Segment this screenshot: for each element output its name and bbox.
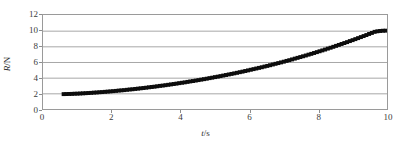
data-point	[384, 29, 387, 33]
x-tick-label: 4	[168, 112, 192, 122]
x-axis-tick-labels: 0246810	[0, 112, 411, 126]
x-tick-label: 8	[307, 112, 331, 122]
data-series-markers	[43, 15, 387, 109]
x-tick-label: 0	[30, 112, 54, 122]
y-tick-mark	[39, 94, 42, 95]
series-0	[62, 29, 387, 96]
x-axis-title-unit: /s	[204, 128, 210, 138]
y-tick-mark	[39, 78, 42, 79]
y-tick-label: 4	[16, 74, 38, 83]
y-tick-mark	[39, 14, 42, 15]
y-axis-title-unit: /N	[2, 57, 12, 66]
y-tick-label: 6	[16, 58, 38, 67]
x-tick-label: 6	[238, 112, 262, 122]
y-tick-mark	[39, 30, 42, 31]
y-tick-mark	[39, 46, 42, 47]
y-tick-label: 8	[16, 42, 38, 51]
x-tick-mark	[319, 110, 320, 113]
y-tick-mark	[39, 110, 42, 111]
x-axis-title: t/s	[0, 128, 411, 138]
x-tick-mark	[111, 110, 112, 113]
y-tick-mark	[39, 62, 42, 63]
x-tick-mark	[250, 110, 251, 113]
y-tick-label: 12	[16, 10, 38, 19]
chart-figure: R/N 024681012 0246810 t/s	[0, 0, 411, 146]
plot-area	[42, 14, 388, 110]
x-tick-label: 2	[99, 112, 123, 122]
y-tick-label: 2	[16, 90, 38, 99]
y-tick-label: 10	[16, 26, 38, 35]
x-tick-label: 10	[376, 112, 400, 122]
x-tick-mark	[180, 110, 181, 113]
y-axis-title-symbol: R	[2, 66, 12, 72]
